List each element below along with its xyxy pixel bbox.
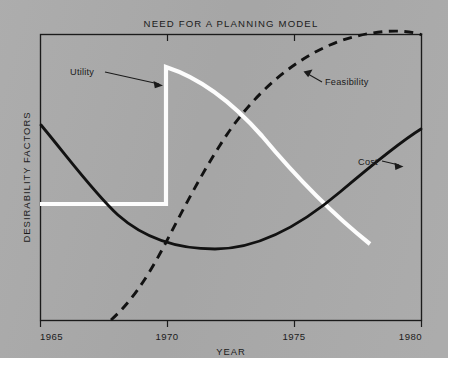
annotation-utility-label: Utility (70, 67, 94, 77)
y-axis-label: DESIRABILITY FACTORS (21, 111, 32, 242)
planning-model-chart: NEED FOR A PLANNING MODEL Utility Feasib… (0, 0, 456, 374)
x-tick-label-1965: 1965 (40, 331, 63, 342)
chart-title: NEED FOR A PLANNING MODEL (144, 18, 319, 29)
series-cost-line (41, 125, 421, 249)
x-tick-label-1980: 1980 (399, 331, 422, 342)
annotation-utility-leader (105, 72, 159, 84)
annotation-utility-arrowhead (154, 81, 164, 88)
figure-page: NEED FOR A PLANNING MODEL Utility Feasib… (0, 0, 456, 374)
annotation-feasibility-label: Feasibility (325, 77, 369, 87)
x-tick-label-1975: 1975 (282, 331, 305, 342)
series-utility-line (40, 67, 370, 244)
x-axis-label: YEAR (216, 346, 246, 357)
annotation-cost-arrowhead (395, 163, 404, 170)
annotation-cost-label: Cost (358, 157, 378, 167)
annotation-feasibility-leader (308, 74, 322, 82)
x-tick-label-1970: 1970 (155, 331, 178, 342)
series-feasibility-line (111, 31, 422, 320)
